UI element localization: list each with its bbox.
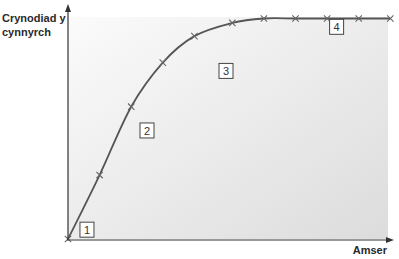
annotation-box-2: 2 (140, 123, 154, 138)
plot-area (68, 17, 388, 239)
svg-text:3: 3 (223, 65, 229, 77)
svg-text:4: 4 (334, 21, 340, 33)
y-axis-arrow-icon (65, 4, 71, 12)
x-axis-arrow-icon (386, 237, 394, 243)
annotation-box-3: 3 (219, 63, 233, 78)
svg-text:1: 1 (84, 224, 90, 236)
annotation-box-4: 4 (330, 19, 344, 34)
svg-text:2: 2 (144, 125, 150, 137)
annotation-box-1: 1 (80, 222, 94, 237)
chart-canvas: 1234 (0, 0, 399, 259)
